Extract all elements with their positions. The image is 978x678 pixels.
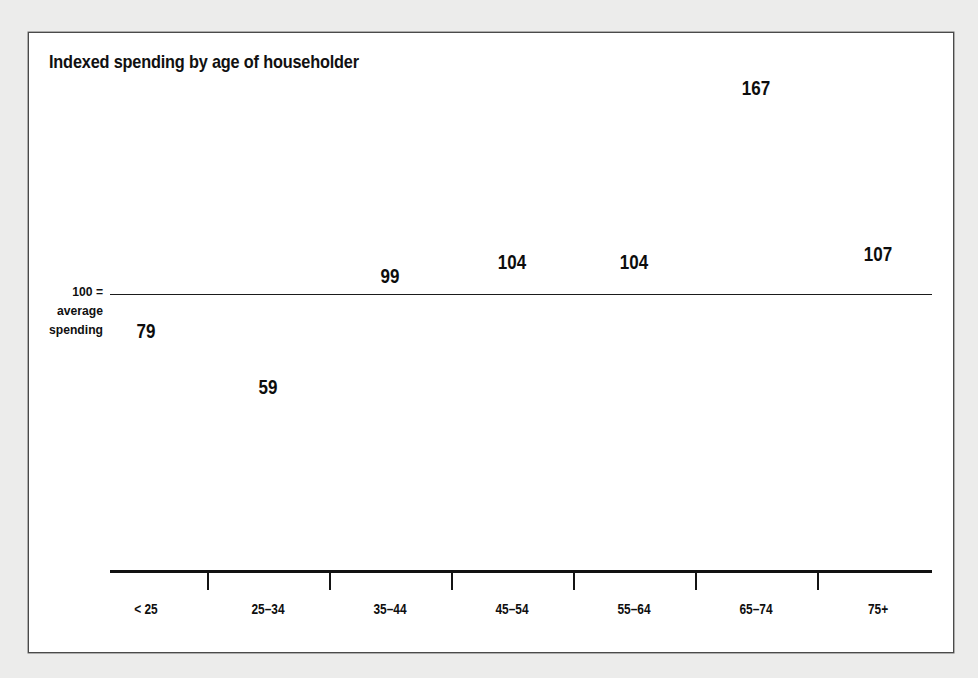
x-axis-category-label: 65–74: [705, 601, 807, 617]
x-axis-category-label: 55–64: [583, 601, 685, 617]
x-axis-category-label: < 25: [95, 601, 197, 617]
x-axis-tick: [817, 573, 819, 590]
reference-line-label-line-2: average: [29, 301, 103, 320]
bar-value-label: 59: [240, 376, 296, 399]
x-axis-tick: [695, 573, 697, 590]
reference-line-label-line-1: 100 =: [29, 282, 103, 301]
x-axis-tick: [451, 573, 453, 590]
bar-value-label: 104: [484, 251, 540, 274]
x-axis-tick: [329, 573, 331, 590]
bar-value-label: 167: [728, 77, 784, 100]
x-axis-tick: [207, 573, 209, 590]
plot-area: 100 = average spending 79 59 99 104 10: [29, 33, 953, 652]
reference-line: [110, 294, 932, 295]
x-axis-category-label: 35–44: [339, 601, 441, 617]
x-axis-category-label: 25–34: [217, 601, 319, 617]
bar-value-label: 79: [118, 320, 174, 343]
page-background: Indexed spending by age of householder 1…: [0, 0, 978, 678]
x-axis-line: [110, 570, 932, 573]
reference-line-label-line-3: spending: [29, 320, 103, 339]
bar-value-label: 107: [850, 243, 906, 266]
chart-frame: Indexed spending by age of householder 1…: [28, 32, 954, 653]
x-axis-category-label: 45–54: [461, 601, 563, 617]
bar-value-label: 104: [606, 251, 662, 274]
reference-line-annotation: 100 = average spending: [29, 282, 103, 339]
x-axis-tick: [573, 573, 575, 590]
x-axis-category-label: 75+: [827, 601, 929, 617]
bar-value-label: 99: [362, 265, 418, 288]
